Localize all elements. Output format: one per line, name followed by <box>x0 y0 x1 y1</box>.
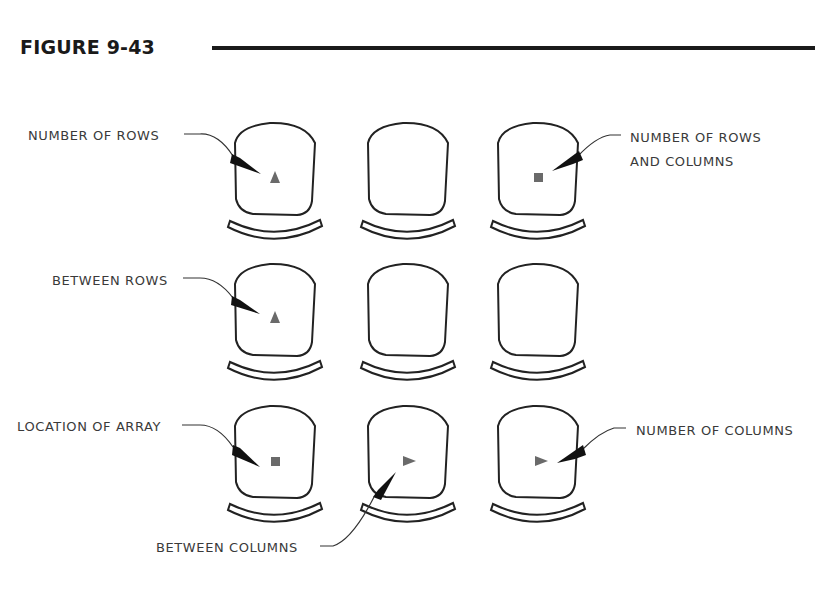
arrowhead-icon <box>552 151 583 171</box>
leader-location-of-array <box>182 425 233 447</box>
leader-number-of-rows <box>184 134 233 156</box>
chair-r2c2 <box>361 264 455 380</box>
triangle-right-marker-icon <box>403 456 416 466</box>
label-number-of-columns: NUMBER OF COLUMNS <box>636 423 793 438</box>
triangle-up-marker-icon <box>270 311 280 323</box>
leader-between-rows <box>183 278 233 298</box>
leader-rows-and-columns <box>578 135 621 156</box>
triangle-right-marker-icon <box>535 456 548 466</box>
square-marker-icon <box>271 457 280 466</box>
chair-r1c2 <box>361 123 455 239</box>
chair-array-diagram: NUMBER OF ROWS NUMBER OF ROWS AND COLUMN… <box>0 0 839 589</box>
leader-number-of-columns <box>583 428 626 449</box>
label-number-of-rows-and-columns-2: AND COLUMNS <box>630 154 734 169</box>
square-marker-icon <box>534 173 543 182</box>
label-between-columns: BETWEEN COLUMNS <box>156 540 298 555</box>
label-location-of-array: LOCATION OF ARRAY <box>17 419 161 434</box>
label-number-of-rows: NUMBER OF ROWS <box>28 128 159 143</box>
chair-r2c3 <box>491 264 585 380</box>
arrowhead-icon <box>557 445 586 463</box>
label-number-of-rows-and-columns-1: NUMBER OF ROWS <box>630 130 761 145</box>
label-between-rows: BETWEEN ROWS <box>52 273 168 288</box>
triangle-up-marker-icon <box>270 171 280 183</box>
